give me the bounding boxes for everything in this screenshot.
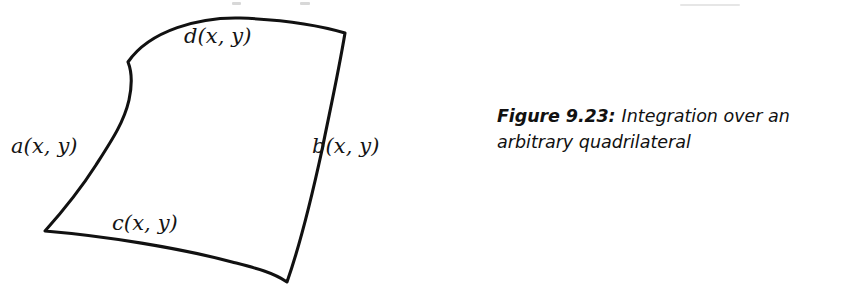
figure-panel: d(x, y) a(x, y) b(x, y) c(x, y) xyxy=(0,0,425,286)
figure-page: d(x, y) a(x, y) b(x, y) c(x, y) Figure 9… xyxy=(0,0,850,286)
edge-label-d: d(x, y) xyxy=(184,26,252,47)
caption-figure-number: Figure 9.23: xyxy=(497,106,616,126)
figure-caption: Figure 9.23:Integration over an arbitrar… xyxy=(497,104,842,155)
edge-label-b: b(x, y) xyxy=(312,136,380,157)
quadrilateral-outline xyxy=(45,18,345,282)
edge-label-a: a(x, y) xyxy=(11,136,78,157)
edge-label-c: c(x, y) xyxy=(112,213,178,234)
